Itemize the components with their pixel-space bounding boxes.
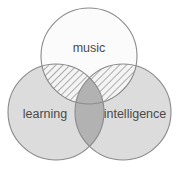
label-intelligence: intelligence <box>104 107 167 121</box>
label-music: music <box>73 41 106 55</box>
venn-diagram-svg: music learning intelligence <box>0 0 180 173</box>
venn-diagram-container: music learning intelligence <box>0 0 180 173</box>
label-learning: learning <box>23 107 68 121</box>
